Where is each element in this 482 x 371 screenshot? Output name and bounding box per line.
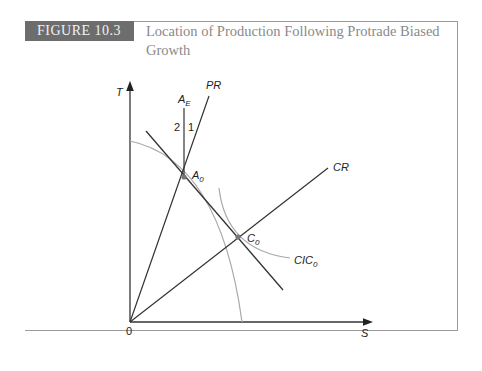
region-1-label: 1: [188, 121, 194, 133]
point-a0: [181, 174, 186, 179]
origin-label: 0: [126, 325, 132, 337]
pr-label: PR: [206, 79, 221, 91]
c0-label: C0: [247, 232, 260, 247]
cic-label: CIC0: [294, 254, 318, 269]
diagram: T S 0 PR CR AE 2 1 A0 C0 CIC0: [0, 0, 482, 371]
ae-label: AE: [177, 93, 191, 108]
x-axis-label: S: [361, 327, 369, 339]
y-axis-label: T: [116, 86, 124, 98]
cr-label: CR: [333, 161, 349, 173]
ppf-curve: [130, 141, 242, 322]
cic-curve: [219, 188, 290, 258]
region-2-label: 2: [174, 121, 180, 133]
price-line: [146, 131, 283, 290]
cr-line: [130, 168, 328, 322]
point-c0: [235, 234, 240, 239]
pr-line: [130, 96, 209, 322]
